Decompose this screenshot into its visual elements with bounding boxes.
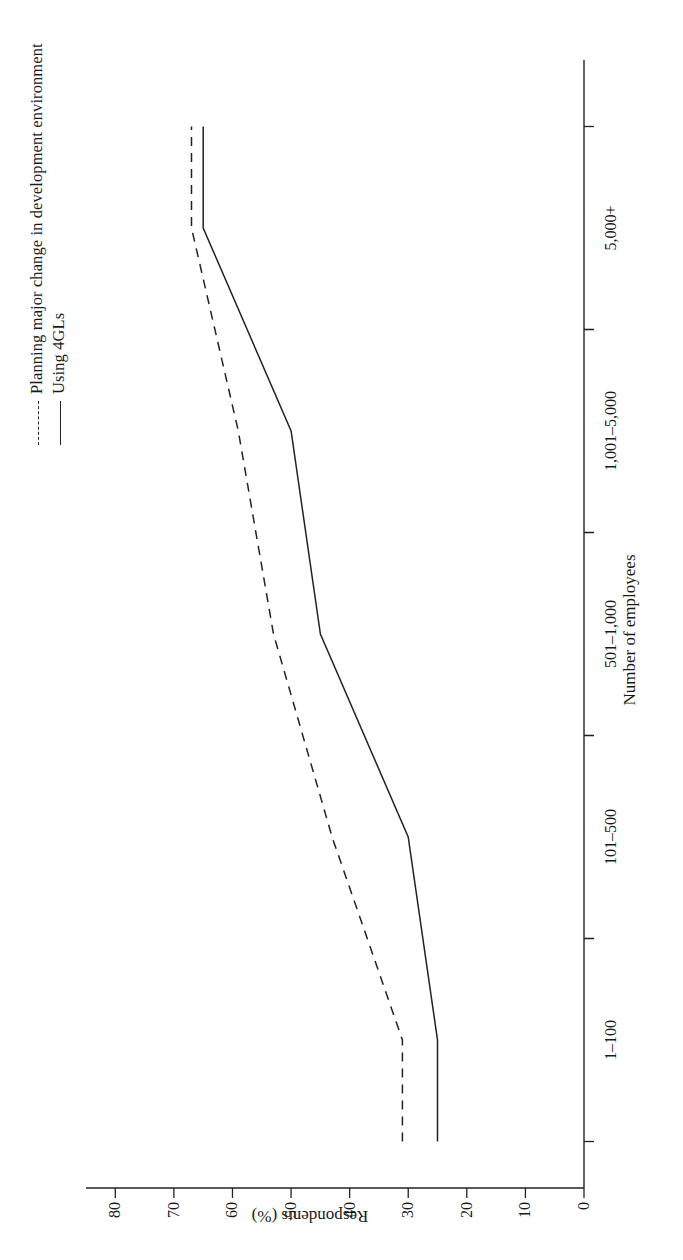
y-axis-tick-label: 80	[106, 1202, 124, 1244]
y-axis-tick-label: 0	[575, 1202, 593, 1244]
x-axis-tick-label: 101–500	[602, 809, 620, 865]
legend-item-using-4gls: Using 4GLs	[50, 15, 68, 445]
dashed-line-swatch	[38, 401, 39, 445]
data-series-line-2	[203, 127, 437, 1142]
y-axis-title: Respondents (%)	[180, 1206, 440, 1226]
rotated-figure-stage: Planning major change in development env…	[0, 0, 683, 1260]
y-axis-tick-label: 10	[516, 1202, 534, 1244]
x-axis-tick-label: 5,000+	[602, 205, 620, 250]
legend-item-label: Using 4GLs	[50, 313, 68, 394]
chart-legend: Planning major change in development env…	[28, 15, 72, 445]
legend-item-label: Planning major change in development env…	[28, 43, 46, 394]
legend-item-planning-major-change: Planning major change in development env…	[28, 15, 46, 445]
solid-line-swatch	[60, 401, 61, 445]
chart-figure: Planning major change in development env…	[0, 0, 683, 1260]
x-axis-tick-label: 1,001–5,000	[602, 391, 620, 471]
x-axis-tick-label: 501–1,000	[602, 600, 620, 668]
x-axis-title: Number of employees	[620, 0, 640, 1260]
y-axis-tick-label: 20	[458, 1202, 476, 1244]
x-axis-tick-label: 1–100	[602, 1020, 620, 1060]
plot-area: 010203040506070801–100101–500501–1,0001,…	[86, 60, 584, 1188]
chart-plot-svg	[86, 60, 584, 1188]
data-series-line-1	[192, 127, 403, 1142]
